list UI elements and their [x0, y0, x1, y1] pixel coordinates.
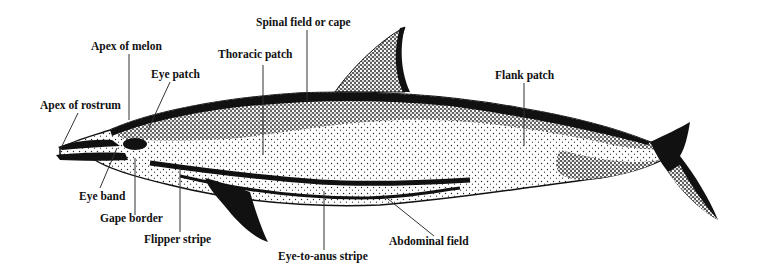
label-apex-of-rostrum: Apex of rostrum — [40, 100, 121, 112]
label-spinal-field: Spinal field or cape — [256, 17, 351, 29]
label-gape-border: Gape border — [100, 213, 163, 225]
label-apex-of-melon: Apex of melon — [91, 41, 162, 53]
dolphin-diagram: Apex of rostrum Apex of melon Eye patch … — [0, 0, 758, 280]
label-eye-patch: Eye patch — [151, 69, 200, 81]
label-eye-to-anus-stripe: Eye-to-anus stripe — [278, 251, 368, 263]
label-thoracic-patch: Thoracic patch — [218, 49, 292, 61]
label-eye-band: Eye band — [79, 191, 125, 203]
label-abdominal-field: Abdominal field — [389, 236, 469, 248]
label-flank-patch: Flank patch — [495, 70, 554, 82]
label-flipper-stripe: Flipper stripe — [144, 234, 211, 246]
dorsal-fin — [335, 27, 405, 92]
